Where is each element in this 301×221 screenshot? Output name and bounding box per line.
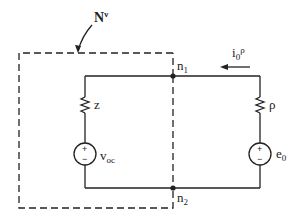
resistor-z-icon bbox=[81, 97, 89, 113]
source-e0-label: e0 bbox=[276, 146, 287, 163]
plus-sign: + bbox=[257, 144, 262, 154]
minus-sign: − bbox=[257, 154, 262, 164]
node-n2-dot bbox=[170, 185, 175, 190]
resistor-z-label: z bbox=[94, 97, 100, 112]
minus-sign: − bbox=[82, 154, 87, 164]
node-n1-dot bbox=[170, 73, 175, 78]
plus-sign: + bbox=[82, 144, 87, 154]
node-n2-label: n2 bbox=[177, 190, 188, 207]
network-label: Nν bbox=[94, 9, 108, 25]
source-voc-label: voc bbox=[100, 148, 115, 165]
circuit-diagram: Nν + − z voc + − ρ e0 n1 n2 i0ρ bbox=[0, 0, 301, 221]
current-label: i0ρ bbox=[232, 45, 245, 62]
node-n1-label: n1 bbox=[177, 58, 188, 75]
resistor-rho-label: ρ bbox=[269, 97, 276, 112]
resistor-rho-icon bbox=[256, 97, 264, 113]
arrow-left-icon bbox=[220, 64, 228, 70]
arrowhead-icon bbox=[75, 45, 81, 53]
